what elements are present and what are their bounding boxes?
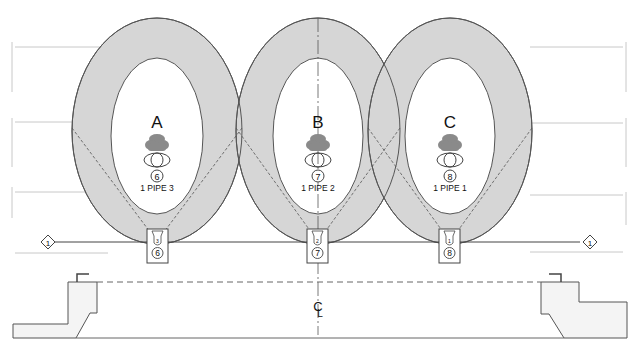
section-profile: C L [13, 274, 627, 338]
fixture-a: 3 6 [147, 229, 168, 263]
zone-b-number: 7 [315, 172, 320, 182]
fixture-c-small-num: 1 [448, 238, 451, 244]
zone-a-letter: A [151, 113, 163, 132]
coverage-diagram: 1 1 A 6 1 PIPE 3 B [0, 0, 641, 350]
zone-c-pipe-label: 1 PIPE 1 [433, 183, 467, 193]
zone-a-pipe-label: 1 PIPE 3 [140, 183, 174, 193]
left-block [13, 282, 97, 338]
zone-b-letter: B [312, 113, 323, 132]
fixture-c: 1 8 [439, 229, 460, 263]
centerline-symbol: C L [313, 299, 323, 319]
zone-c-letter: C [444, 113, 456, 132]
fixture-c-number: 8 [447, 248, 452, 258]
zone-c-number: 8 [447, 172, 452, 182]
svg-text:L: L [317, 308, 323, 319]
right-guides [530, 42, 626, 252]
marker-left: 1 [41, 235, 55, 249]
fixture-b-number: 7 [315, 248, 320, 258]
zone-b-pipe-label: 1 PIPE 2 [301, 183, 335, 193]
fixture-b-small-num: 2 [316, 238, 319, 244]
zone-a-number: 6 [154, 172, 159, 182]
marker-right: 1 [583, 235, 597, 249]
marker-right-label: 1 [588, 239, 593, 248]
right-block [541, 282, 627, 338]
fixture-b: 2 7 [307, 229, 328, 263]
marker-left-label: 1 [46, 239, 51, 248]
fixture-a-small-num: 3 [156, 238, 159, 244]
fixture-a-number: 6 [155, 248, 160, 258]
